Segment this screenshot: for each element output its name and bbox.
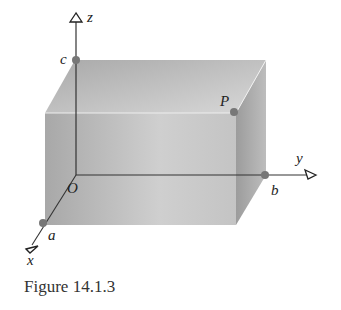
point-a bbox=[39, 219, 47, 227]
box-front-face bbox=[45, 113, 236, 225]
point-a-label: a bbox=[48, 227, 56, 243]
z-arrowhead-icon bbox=[70, 13, 82, 22]
origin-label: O bbox=[67, 180, 78, 196]
y-axis-label: y bbox=[294, 150, 303, 166]
point-P-label: P bbox=[219, 93, 229, 109]
point-c bbox=[72, 56, 80, 64]
point-b bbox=[261, 171, 269, 179]
z-axis-label: z bbox=[86, 9, 93, 25]
figure-caption: Figure 14.1.3 bbox=[24, 277, 115, 296]
point-P bbox=[230, 108, 238, 116]
point-c-label: c bbox=[60, 51, 67, 67]
y-arrowhead-icon bbox=[305, 170, 316, 179]
point-b-label: b bbox=[271, 182, 279, 198]
x-axis-label: x bbox=[26, 252, 34, 268]
box-top-face bbox=[45, 60, 266, 113]
rectangular-box-figure: z y x O c P b a Figure 14.1.3 bbox=[0, 0, 341, 310]
